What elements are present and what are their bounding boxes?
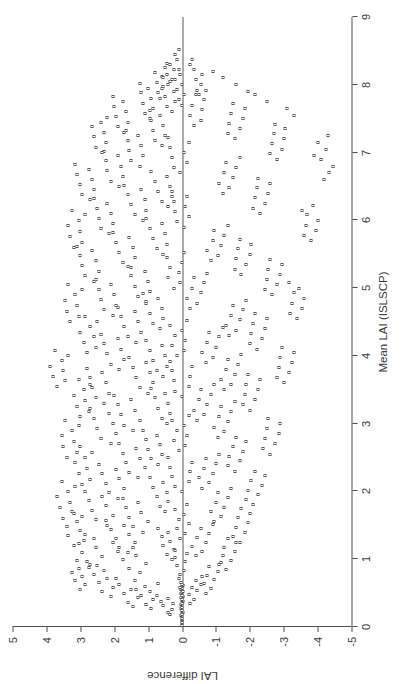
scatter-point (136, 295, 139, 298)
scatter-point (95, 565, 98, 568)
scatter-point (302, 234, 305, 237)
scatter-point (102, 569, 105, 572)
scatter-point (251, 207, 254, 210)
scatter-point (88, 325, 91, 328)
scatter-point (287, 281, 290, 284)
scatter-point (226, 420, 229, 423)
scatter-point (97, 288, 100, 291)
scatter-point (112, 394, 115, 397)
scatter-point (244, 263, 247, 266)
scatter-point (99, 437, 102, 440)
scatter-point (122, 592, 125, 595)
scatter-point (272, 132, 275, 135)
scatter-point (266, 192, 269, 195)
scatter-point (114, 537, 117, 540)
scatter-point (170, 344, 173, 347)
scatter-point (265, 278, 268, 281)
scatter-point (309, 239, 312, 242)
scatter-point (148, 371, 151, 374)
scatter-point (178, 281, 181, 284)
scatter-point (224, 568, 227, 571)
scatter-point (139, 188, 142, 191)
scatter-point (192, 598, 195, 601)
scatter-point (199, 583, 202, 586)
scatter-point (194, 93, 197, 96)
scatter-point (122, 424, 125, 427)
scatter-point (114, 432, 117, 435)
scatter-point (78, 254, 81, 257)
scatter-point (61, 445, 64, 448)
scatter-point (160, 344, 163, 347)
scatter-point (116, 550, 119, 553)
scatter-point (234, 541, 237, 544)
scatter-point (77, 219, 80, 222)
scatter-point (151, 486, 154, 489)
scatter-point (148, 590, 151, 593)
scatter-point (263, 327, 266, 330)
scatter-point (138, 386, 141, 389)
y-tick-label: 3 (74, 637, 86, 643)
scatter-point (207, 481, 210, 484)
scatter-point (214, 346, 217, 349)
scatter-point (173, 100, 176, 103)
scatter-point (170, 78, 173, 81)
scatter-point (104, 159, 107, 162)
scatter-point (224, 324, 227, 327)
scatter-point (122, 325, 125, 328)
scatter-point (168, 360, 171, 363)
x-tick-label: 8 (359, 82, 371, 88)
scatter-point (90, 509, 93, 512)
scatter-point (143, 199, 146, 202)
scatter-point (205, 249, 208, 252)
scatter-point (180, 490, 183, 493)
scatter-point (146, 280, 149, 283)
scatter-point (183, 205, 186, 208)
scatter-point (200, 108, 203, 111)
scatter-point (180, 104, 183, 107)
scatter-point (205, 341, 208, 344)
scatter-point (72, 394, 75, 397)
scatter-point (80, 515, 83, 518)
scatter-point (165, 491, 168, 494)
scatter-point (158, 505, 161, 508)
scatter-point (99, 227, 102, 230)
y-tick-mark (182, 627, 183, 632)
scatter-point (70, 209, 73, 212)
scatter-point (121, 100, 124, 103)
scatter-point (92, 417, 95, 420)
scatter-point (170, 195, 173, 198)
scatter-point (326, 134, 329, 137)
scatter-point (78, 588, 81, 591)
scatter-point (134, 376, 137, 379)
scatter-point (77, 424, 80, 427)
scatter-point (146, 520, 149, 523)
scatter-point (180, 83, 183, 86)
scatter-point (95, 207, 98, 210)
scatter-point (190, 545, 193, 548)
scatter-point (253, 312, 256, 315)
scatter-point (166, 611, 169, 614)
scatter-point (163, 232, 166, 235)
scatter-point (122, 358, 125, 361)
scatter-point (216, 570, 219, 573)
scatter-point (234, 83, 237, 86)
scatter-point (121, 175, 124, 178)
scatter-point (217, 182, 220, 185)
scatter-point (75, 405, 78, 408)
scatter-point (143, 270, 146, 273)
scatter-point (199, 83, 202, 86)
scatter-point (53, 349, 56, 352)
scatter-point (288, 312, 291, 315)
scatter-point (212, 578, 215, 581)
scatter-point (156, 297, 159, 300)
scatter-point (285, 107, 288, 110)
scatter-point (170, 190, 173, 193)
scatter-point (73, 579, 76, 582)
scatter-point (127, 516, 130, 519)
scatter-point (217, 335, 220, 338)
scatter-point (131, 366, 134, 369)
scatter-point (146, 87, 149, 90)
scatter-point (173, 334, 176, 337)
scatter-point (178, 537, 181, 540)
scatter-point (222, 234, 225, 237)
